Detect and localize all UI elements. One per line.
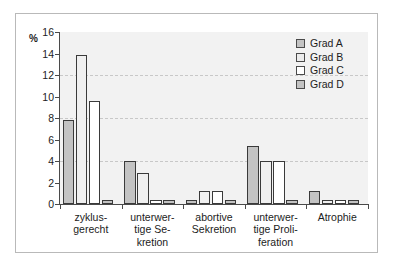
gridline bbox=[60, 161, 368, 162]
y-axis-tick-label: 16 bbox=[30, 27, 54, 37]
x-axis-label-line: zyklus- bbox=[60, 211, 122, 223]
y-axis-tick bbox=[55, 161, 60, 162]
x-axis-tick bbox=[306, 204, 307, 209]
legend-swatch-icon bbox=[296, 39, 305, 48]
x-axis-label-line: tige Se- bbox=[122, 223, 184, 235]
bar-b-group-1 bbox=[76, 55, 88, 204]
x-axis-label-line: kretion bbox=[122, 236, 184, 248]
x-axis-label-line: gerecht bbox=[60, 223, 122, 235]
bar-b-group-4 bbox=[260, 161, 272, 204]
x-axis-group-label: Atrophie bbox=[306, 211, 368, 223]
x-axis-group-label: unterwer-tige Proli-feration bbox=[245, 211, 307, 248]
legend-label: Grad B bbox=[310, 52, 343, 63]
y-axis-tick-label: 0 bbox=[30, 199, 54, 209]
bar-a-group-4 bbox=[247, 146, 259, 204]
x-axis-group-label: zyklus-gerecht bbox=[60, 211, 122, 236]
bar-a-group-1 bbox=[63, 120, 75, 204]
x-axis-line bbox=[59, 204, 369, 205]
bar-c-group-3 bbox=[212, 191, 224, 204]
bar-a-group-5 bbox=[309, 191, 321, 204]
x-axis-tick bbox=[368, 204, 369, 209]
legend-item-a: Grad A bbox=[296, 37, 372, 50]
x-axis-label-line: unterwer- bbox=[245, 211, 307, 223]
legend-label: Grad C bbox=[310, 65, 344, 76]
y-axis-tick bbox=[55, 97, 60, 98]
chart-figure: % 0246810121416 Grad AGrad BGrad CGrad D… bbox=[0, 0, 395, 268]
x-axis-group-label: abortiveSekretion bbox=[183, 211, 245, 236]
y-axis-tick bbox=[55, 118, 60, 119]
y-axis-tick bbox=[55, 75, 60, 76]
y-axis-tick bbox=[55, 183, 60, 184]
y-axis-tick bbox=[55, 140, 60, 141]
x-axis-group-label: unterwer-tige Se-kretion bbox=[122, 211, 184, 248]
legend-label: Grad A bbox=[310, 38, 343, 49]
x-axis-label-line: Atrophie bbox=[306, 211, 368, 223]
chart-legend: Grad AGrad BGrad CGrad D bbox=[296, 37, 372, 91]
y-axis-tick-labels: 0246810121416 bbox=[26, 0, 54, 268]
x-axis-label-line: feration bbox=[245, 236, 307, 248]
x-axis-label-line: unterwer- bbox=[122, 211, 184, 223]
x-axis-label-line: abortive bbox=[183, 211, 245, 223]
bar-b-group-2 bbox=[137, 173, 149, 204]
x-axis-tick bbox=[245, 204, 246, 209]
legend-swatch-icon bbox=[296, 66, 305, 75]
legend-swatch-icon bbox=[296, 80, 305, 89]
x-axis-label-line: tige Proli- bbox=[245, 223, 307, 235]
y-axis-tick-label: 12 bbox=[30, 70, 54, 80]
legend-item-d: Grad D bbox=[296, 78, 372, 91]
gridline bbox=[60, 118, 368, 119]
y-axis-tick bbox=[55, 54, 60, 55]
y-axis-tick-label: 6 bbox=[30, 135, 54, 145]
legend-item-c: Grad C bbox=[296, 64, 372, 77]
y-axis-tick-label: 2 bbox=[30, 178, 54, 188]
x-axis-label-line: Sekretion bbox=[183, 223, 245, 235]
bar-c-group-1 bbox=[89, 101, 101, 204]
legend-item-b: Grad B bbox=[296, 51, 372, 64]
y-axis-tick bbox=[55, 32, 60, 33]
legend-swatch-icon bbox=[296, 53, 305, 62]
x-axis-tick bbox=[122, 204, 123, 209]
x-axis-tick bbox=[60, 204, 61, 209]
x-axis-tick bbox=[183, 204, 184, 209]
y-axis-tick-label: 10 bbox=[30, 92, 54, 102]
bar-b-group-3 bbox=[199, 191, 211, 204]
bar-c-group-4 bbox=[273, 161, 285, 204]
legend-label: Grad D bbox=[310, 79, 344, 90]
y-axis-tick-label: 14 bbox=[30, 49, 54, 59]
y-axis-tick-label: 4 bbox=[30, 156, 54, 166]
bar-a-group-2 bbox=[124, 161, 136, 204]
y-axis-tick-label: 8 bbox=[30, 113, 54, 123]
